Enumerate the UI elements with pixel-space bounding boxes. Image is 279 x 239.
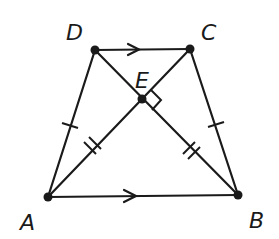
segment-bc xyxy=(190,49,238,195)
trapezoid-diagram: D C E A B xyxy=(0,0,279,239)
diagonal-ac xyxy=(48,49,190,197)
diagonal-bd xyxy=(95,50,238,195)
segment-cd xyxy=(95,49,190,50)
point-b xyxy=(234,191,243,200)
segment-ab xyxy=(48,195,238,197)
point-c xyxy=(186,45,195,54)
point-d xyxy=(91,46,100,55)
label-c: C xyxy=(201,20,217,45)
label-a: A xyxy=(18,210,35,235)
label-e: E xyxy=(135,68,149,93)
point-e xyxy=(138,95,147,104)
label-b: B xyxy=(249,208,264,233)
point-a xyxy=(44,193,53,202)
label-d: D xyxy=(66,20,83,45)
segment-da xyxy=(48,50,95,197)
double-tick-be-2-icon xyxy=(188,147,200,159)
